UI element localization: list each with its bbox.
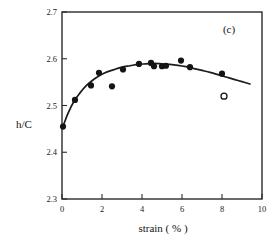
x-tick-label-10: 10	[258, 204, 267, 214]
data-point	[109, 83, 115, 89]
data-points-open	[221, 93, 227, 99]
x-tick-label-0: 0	[60, 204, 64, 214]
x-axis-label: strain ( % )	[138, 222, 188, 235]
panel-label: (c)	[223, 23, 236, 36]
data-point	[96, 70, 102, 76]
x-tick-label-6: 6	[180, 204, 184, 214]
data-point	[187, 64, 193, 70]
y-tick-label-2.6: 2.6	[46, 54, 57, 64]
y-tick-label-2.5: 2.5	[46, 101, 57, 111]
data-point	[221, 93, 227, 99]
data-point	[120, 66, 126, 72]
y-tick-label-2.3: 2.3	[46, 194, 57, 204]
y-tick-label-2.7: 2.7	[46, 7, 57, 17]
data-point	[178, 58, 184, 64]
data-point	[219, 71, 225, 77]
chart-figure: 0246810 2.32.42.52.62.7 strain ( % ) h/C…	[0, 0, 277, 243]
x-tick-label-8: 8	[220, 204, 224, 214]
scatter-plot: 0246810 2.32.42.52.62.7 strain ( % ) h/C…	[0, 0, 277, 243]
data-point	[60, 123, 66, 129]
figure-background	[0, 0, 277, 243]
data-point	[72, 97, 78, 103]
data-point	[136, 61, 142, 67]
y-tick-label-2.4: 2.4	[46, 147, 57, 157]
y-axis-label: h/C	[16, 118, 32, 130]
data-point	[151, 63, 157, 69]
data-point	[88, 82, 94, 88]
data-point	[163, 63, 169, 69]
x-tick-label-2: 2	[100, 204, 104, 214]
